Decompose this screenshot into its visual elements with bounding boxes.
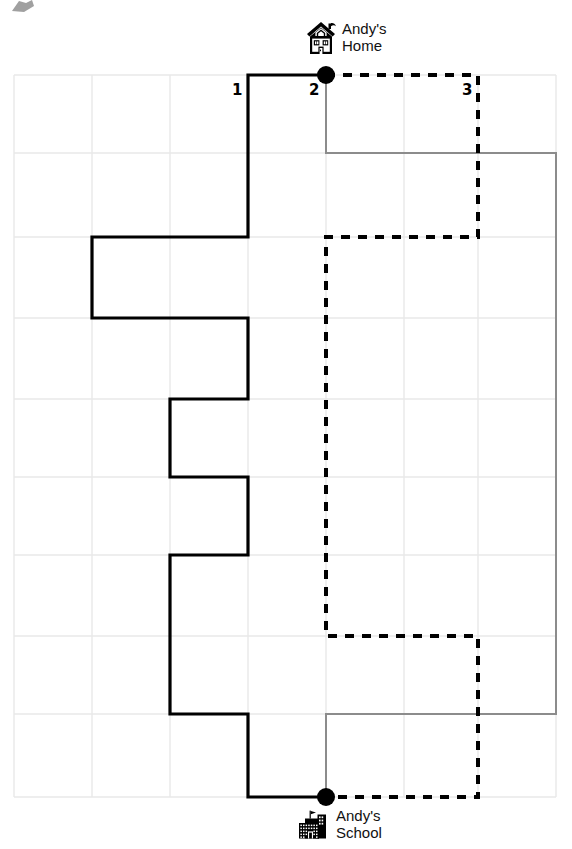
corner-artifact: [10, 0, 36, 14]
grid-lines: [14, 75, 556, 797]
home-place-group: Andy's Home: [305, 20, 387, 56]
school-place-group: Andy's School: [297, 808, 382, 842]
house-icon: [305, 20, 337, 56]
school-label: Andy's School: [336, 808, 382, 842]
solid-route-path: [92, 75, 326, 797]
grid-label-2: 2: [309, 83, 319, 98]
dashed-route-path: [326, 75, 478, 797]
grid-label-1: 1: [232, 83, 242, 98]
home-marker-dot: [317, 66, 335, 84]
home-label: Andy's Home: [342, 21, 387, 55]
route-diagram-canvas: 1 2 3 Andy's Home: [0, 0, 572, 849]
school-marker-dot: [317, 788, 335, 806]
diagram-svg: [0, 0, 572, 849]
grid-label-3: 3: [462, 83, 472, 98]
gray-route-path: [326, 75, 556, 797]
school-icon: [297, 810, 331, 840]
